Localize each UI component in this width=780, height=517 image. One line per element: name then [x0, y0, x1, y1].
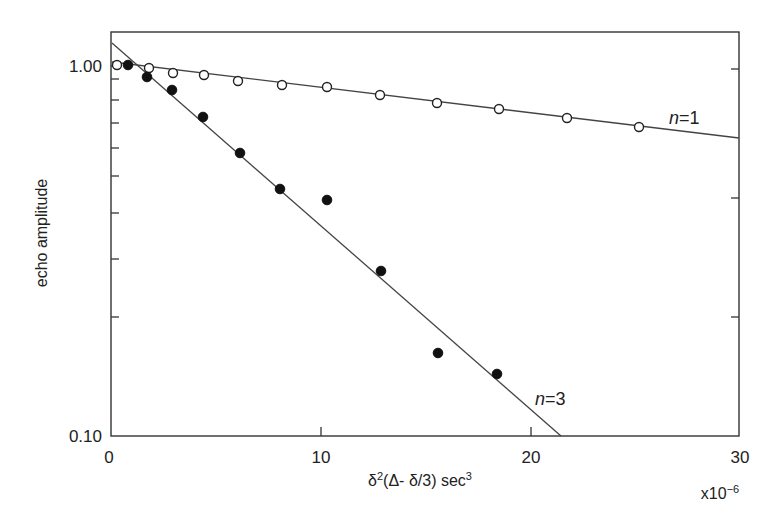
y-tick-label-bottom: 0.10 — [69, 427, 102, 446]
data-point — [123, 60, 133, 70]
data-point — [495, 105, 504, 114]
data-point — [113, 61, 122, 70]
x-axis-label: δ2(Δ- δ/3) sec3 — [368, 470, 472, 489]
data-point — [145, 64, 154, 73]
data-point — [376, 91, 385, 100]
series-n3-points — [123, 60, 502, 379]
plot-frame — [111, 32, 739, 436]
data-point — [275, 184, 285, 194]
data-point — [169, 69, 178, 78]
data-point — [142, 72, 152, 82]
data-point — [278, 81, 287, 90]
data-point — [198, 112, 208, 122]
data-point — [167, 85, 177, 95]
data-point — [322, 195, 332, 205]
data-point — [200, 71, 209, 80]
x-tick-label-10: 10 — [312, 448, 331, 467]
y-ticks-left — [111, 66, 119, 317]
y-axis-label: echo amplitude — [33, 179, 50, 288]
data-point — [323, 83, 332, 92]
series-label-n3: n=3 — [535, 389, 566, 409]
series-label-n1: n=1 — [669, 108, 700, 128]
chart: 1.00 0.10 0 10 20 30 echo amplitude δ2(Δ… — [0, 0, 780, 517]
data-point — [376, 266, 386, 276]
data-point — [235, 148, 245, 158]
x-tick-label-20: 20 — [522, 448, 541, 467]
x-tick-label-30: 30 — [731, 448, 750, 467]
data-point — [433, 99, 442, 108]
data-point — [234, 77, 243, 86]
data-point — [433, 348, 443, 358]
y-ticks-right — [731, 69, 739, 317]
data-point — [563, 114, 572, 123]
data-point — [492, 369, 502, 379]
x-tick-label-0: 0 — [104, 448, 113, 467]
y-tick-label-top: 1.00 — [69, 57, 102, 76]
x-axis-multiplier: x10−6 — [701, 483, 739, 502]
x-ticks — [321, 427, 531, 436]
data-point — [635, 123, 644, 132]
